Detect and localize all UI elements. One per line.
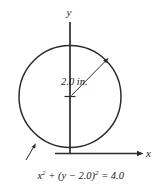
y-axis-label: y [66,6,72,18]
x-axis-label: x [145,147,151,159]
circle-diagram-figure: y x 2.0 in. x2 + (y − 2.0)2 = 4.0 [0,0,160,185]
circle-equation-label: x2 + (y − 2.0)2 = 4.0 [19,169,137,182]
radius-dimension-label: 2.0 in. [61,76,88,87]
equation-plus-open: + ( [46,170,63,182]
equation-leader-arrowhead [32,143,36,148]
equation-equals-value: = 4.0 [99,170,125,181]
diagram-canvas: y x 2.0 in. x2 + (y − 2.0)2 = 4.0 [0,0,160,185]
equation-minus-value: − 2.0) [66,170,95,182]
x-axis-arrowhead [137,151,144,156]
